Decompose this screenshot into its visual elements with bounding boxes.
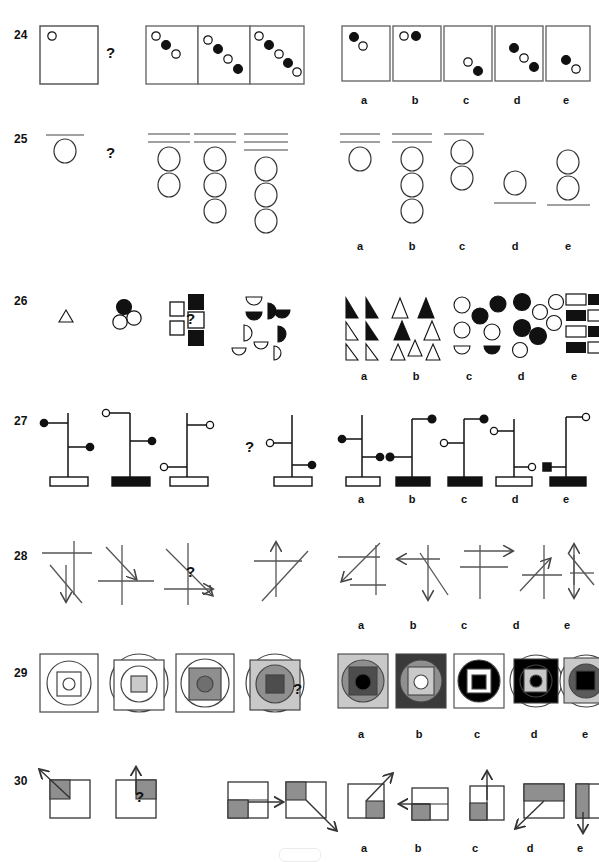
question-row-25: 25: [0, 126, 599, 256]
stem-cluster-4: [232, 297, 290, 360]
option-29-c[interactable]: [454, 654, 504, 708]
options-25-svg: [334, 126, 594, 236]
option-label-28-c: c: [452, 619, 476, 631]
option-24-e[interactable]: [546, 26, 590, 81]
options-28: [336, 537, 594, 617]
stem-26: [38, 288, 318, 366]
options-24-svg: [340, 22, 590, 92]
option-label-24-e: e: [554, 94, 578, 106]
option-label-27-d: d: [503, 493, 527, 505]
option-24-a[interactable]: [342, 26, 390, 81]
question-number-27: 27: [14, 414, 28, 428]
option-29-a[interactable]: [338, 654, 388, 708]
stem-lines-2: [98, 545, 154, 605]
question-mark-25: ?: [106, 144, 115, 161]
option-30-c[interactable]: [470, 772, 504, 820]
stem-group-4: [244, 134, 288, 233]
option-25-a[interactable]: [340, 134, 380, 171]
option-label-30-d: d: [518, 842, 542, 854]
options-26-svg: [340, 288, 590, 366]
option-30-a[interactable]: [348, 774, 392, 818]
option-label-30-e: e: [568, 842, 592, 854]
question-number-28: 28: [14, 549, 28, 563]
option-26-e[interactable]: [566, 294, 599, 353]
stem-28: [36, 537, 316, 617]
question-mark-29: ?: [293, 680, 302, 697]
option-label-27-b: b: [400, 493, 424, 505]
option-29-b[interactable]: [396, 654, 446, 708]
stem-box-1: [40, 26, 98, 84]
option-26-b[interactable]: [391, 298, 440, 360]
question-mark-30: ?: [135, 788, 144, 805]
options-27: [336, 405, 594, 495]
option-28-d[interactable]: [520, 545, 562, 599]
option-25-d[interactable]: [494, 171, 536, 203]
options-26: [340, 288, 590, 366]
option-27-e[interactable]: [543, 413, 590, 486]
option-27-d[interactable]: [490, 419, 535, 486]
option-26-c[interactable]: [454, 296, 506, 354]
option-29-d[interactable]: [510, 655, 562, 707]
option-26-d[interactable]: [513, 294, 564, 358]
option-28-a[interactable]: [338, 543, 386, 595]
option-26-a[interactable]: [346, 298, 378, 360]
option-30-e[interactable]: [576, 784, 599, 832]
option-30-b[interactable]: [400, 788, 448, 820]
option-27-b[interactable]: [386, 415, 436, 486]
stem-24: [38, 22, 308, 92]
option-29-e[interactable]: [560, 655, 599, 707]
option-label-26-e: e: [562, 370, 586, 382]
option-label-24-c: c: [454, 94, 478, 106]
stem-30-svg: [36, 760, 316, 840]
option-label-28-b: b: [401, 619, 425, 631]
option-30-d[interactable]: [516, 784, 564, 828]
option-24-b[interactable]: [393, 26, 441, 81]
stem-30: [36, 760, 316, 840]
option-label-26-b: b: [404, 370, 428, 382]
options-25: [334, 126, 594, 236]
option-25-e[interactable]: [547, 150, 590, 205]
stem-cluster-1: [59, 310, 73, 322]
option-label-24-a: a: [352, 94, 376, 106]
option-27-a[interactable]: [338, 415, 383, 486]
stem-box-4: [250, 26, 304, 84]
question-row-30: 30: [0, 760, 599, 855]
option-label-29-c: c: [465, 728, 489, 740]
option-24-c[interactable]: [444, 26, 492, 81]
option-25-b[interactable]: [392, 134, 432, 223]
stem-pole-2: [102, 409, 155, 486]
option-25-c[interactable]: [444, 134, 484, 190]
option-label-24-d: d: [505, 94, 529, 106]
option-label-26-c: c: [457, 370, 481, 382]
stem-group-3: [194, 134, 236, 223]
question-row-28: 28: [0, 537, 599, 637]
option-label-25-c: c: [450, 240, 474, 252]
option-label-24-b: b: [403, 94, 427, 106]
option-24-d[interactable]: [495, 26, 543, 81]
option-label-25-a: a: [348, 240, 372, 252]
option-27-c[interactable]: [440, 415, 487, 486]
question-row-27: 27: [0, 405, 599, 510]
option-28-e[interactable]: [568, 545, 594, 597]
stem-25-svg: [38, 126, 308, 236]
options-28-svg: [336, 537, 594, 617]
option-label-29-d: d: [522, 728, 546, 740]
stem-pole-4: [266, 415, 315, 486]
question-mark-24: ?: [106, 44, 115, 61]
option-28-b[interactable]: [398, 545, 448, 599]
question-number-30: 30: [14, 774, 28, 788]
options-30: [340, 760, 590, 840]
question-number-25: 25: [14, 132, 28, 146]
stem-pole-1: [40, 413, 93, 486]
stem-nest-3: [176, 654, 234, 712]
question-number-24: 24: [14, 28, 28, 42]
option-label-29-a: a: [349, 728, 373, 740]
option-label-30-a: a: [352, 842, 376, 854]
stem-29: [36, 648, 326, 728]
options-24: [340, 22, 590, 92]
option-label-30-b: b: [406, 842, 430, 854]
stem-group-2: [148, 134, 190, 197]
options-29-svg: [336, 648, 594, 728]
option-28-c[interactable]: [460, 545, 512, 599]
